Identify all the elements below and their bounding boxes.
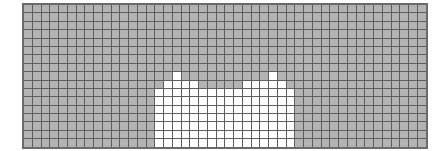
grid-cell — [313, 30, 321, 37]
grid-cell — [357, 131, 365, 138]
grid-cell — [278, 47, 286, 54]
grid-cell — [322, 47, 330, 54]
grid-cell — [50, 139, 58, 146]
grid-cell — [77, 13, 85, 20]
grid-cell — [68, 22, 76, 29]
grid-cell — [418, 55, 426, 62]
grid-cell — [234, 81, 242, 88]
grid-cell — [260, 97, 268, 104]
grid-cell — [164, 106, 172, 113]
grid-cell — [103, 30, 111, 37]
grid-cell — [164, 131, 172, 138]
grid-cell — [339, 47, 347, 54]
grid-cell — [383, 30, 391, 37]
grid-cell — [173, 122, 181, 129]
grid-cell — [33, 106, 41, 113]
grid-cell — [269, 122, 277, 129]
grid-cell — [155, 47, 163, 54]
grid-cell — [348, 114, 356, 121]
grid-cell — [269, 64, 277, 71]
grid-cell — [208, 97, 216, 104]
grid-cell — [409, 106, 417, 113]
grid-cell — [234, 139, 242, 146]
grid-cell — [260, 81, 268, 88]
grid-cell — [339, 72, 347, 79]
pixel-grid — [22, 3, 428, 149]
grid-cell — [252, 122, 260, 129]
grid-cell — [322, 22, 330, 29]
grid-cell — [234, 114, 242, 121]
grid-cell — [392, 106, 400, 113]
grid-cell — [164, 89, 172, 96]
grid-cell — [252, 106, 260, 113]
grid-cell — [225, 122, 233, 129]
grid-cell — [24, 13, 32, 20]
grid-cell — [68, 81, 76, 88]
grid-cell — [50, 5, 58, 12]
grid-cell — [278, 97, 286, 104]
grid-cell — [164, 39, 172, 46]
grid-cell — [287, 139, 295, 146]
grid-cell — [418, 89, 426, 96]
grid-cell — [120, 97, 128, 104]
grid-cell — [147, 64, 155, 71]
grid-cell — [138, 22, 146, 29]
grid-cell — [365, 55, 373, 62]
grid-cell — [173, 72, 181, 79]
grid-cell — [365, 22, 373, 29]
grid-cell — [77, 47, 85, 54]
grid-cell — [199, 72, 207, 79]
grid-cell — [392, 22, 400, 29]
grid-cell — [155, 39, 163, 46]
grid-cell — [129, 5, 137, 12]
grid-cell — [225, 13, 233, 20]
grid-cell — [304, 72, 312, 79]
grid-cell — [243, 122, 251, 129]
grid-cell — [357, 106, 365, 113]
grid-cell — [85, 30, 93, 37]
grid-cell — [208, 64, 216, 71]
grid-cell — [103, 106, 111, 113]
grid-cell — [155, 22, 163, 29]
grid-cell — [322, 122, 330, 129]
grid-cell — [278, 139, 286, 146]
grid-cell — [278, 55, 286, 62]
grid-cell — [269, 22, 277, 29]
grid-cell — [120, 5, 128, 12]
grid-cell — [225, 30, 233, 37]
grid-cell — [77, 55, 85, 62]
grid-cell — [217, 30, 225, 37]
grid-cell — [357, 139, 365, 146]
grid-cell — [304, 89, 312, 96]
grid-cell — [234, 106, 242, 113]
grid-cell — [85, 72, 93, 79]
grid-cell — [24, 22, 32, 29]
grid-cell — [85, 55, 93, 62]
grid-cell — [182, 39, 190, 46]
grid-cell — [269, 5, 277, 12]
grid-cell — [278, 131, 286, 138]
grid-cell — [304, 131, 312, 138]
grid-cell — [409, 13, 417, 20]
grid-cell — [234, 30, 242, 37]
grid-cell — [103, 64, 111, 71]
grid-cell — [138, 106, 146, 113]
grid-cell — [295, 13, 303, 20]
grid-cell — [400, 55, 408, 62]
grid-cell — [278, 114, 286, 121]
grid-cell — [357, 97, 365, 104]
grid-cell — [42, 5, 50, 12]
grid-cell — [190, 39, 198, 46]
grid-cell — [374, 122, 382, 129]
grid-cell — [339, 22, 347, 29]
grid-cell — [252, 81, 260, 88]
grid-cell — [85, 106, 93, 113]
grid-cell — [42, 55, 50, 62]
grid-cell — [278, 22, 286, 29]
grid-cell — [243, 13, 251, 20]
grid-cell — [138, 47, 146, 54]
grid-cell — [330, 13, 338, 20]
grid-cell — [85, 122, 93, 129]
grid-cell — [383, 81, 391, 88]
grid-cell — [138, 30, 146, 37]
